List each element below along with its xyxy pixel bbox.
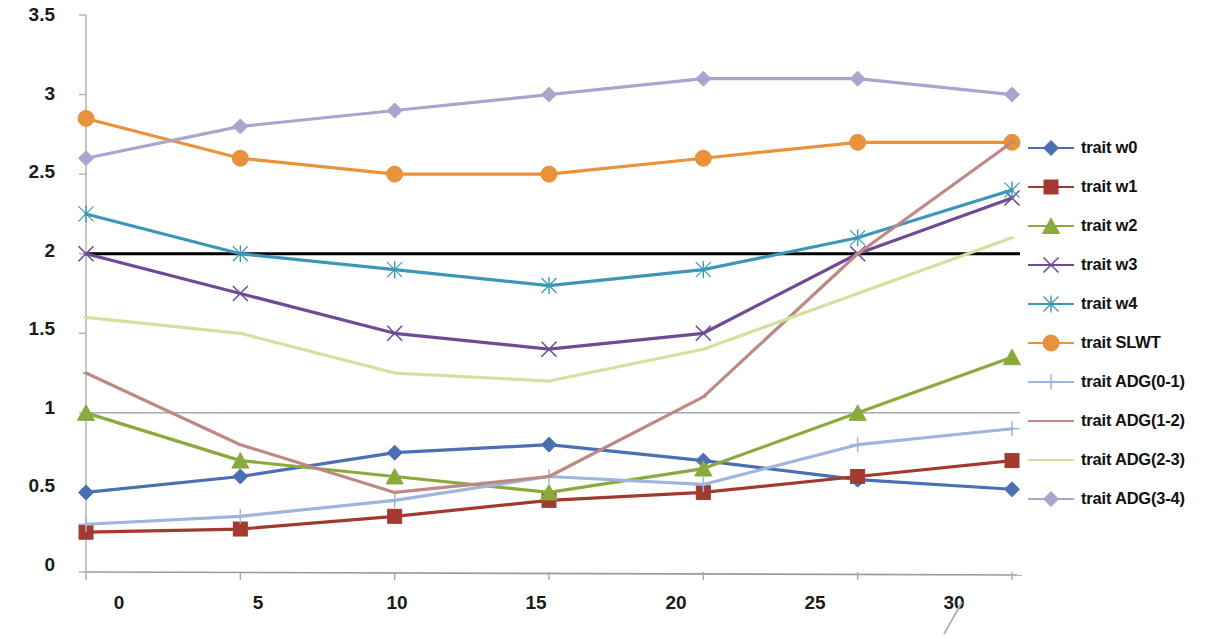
legend-swatch-icon [1028,451,1074,469]
legend-marker-icon [1028,334,1074,352]
legend-label: trait ADG(1-2) [1081,411,1185,430]
legend-item-trait-slwt[interactable]: trait SLWT [1028,323,1222,362]
legend-swatch-icon [1028,178,1074,196]
legend-swatch-icon [1028,217,1074,235]
legend-label: trait ADG(0-1) [1081,372,1185,391]
legend-item-trait-adg-3-4-[interactable]: trait ADG(3-4) [1028,479,1222,518]
legend-item-trait-adg-2-3-[interactable]: trait ADG(2-3) [1028,440,1222,479]
legend-marker-icon [1028,139,1074,157]
legend-item-trait-w0[interactable]: trait w0 [1028,128,1222,167]
legend-item-trait-w2[interactable]: trait w2 [1028,206,1222,245]
legend-swatch-icon [1028,139,1074,157]
chart-legend: trait w0trait w1trait w2trait w3trait w4… [1028,128,1222,518]
legend-marker-icon [1028,256,1074,274]
legend-label: trait SLWT [1081,333,1161,352]
legend-marker-icon [1028,412,1074,430]
legend-label: trait w0 [1081,138,1137,157]
legend-item-trait-adg-1-2-[interactable]: trait ADG(1-2) [1028,401,1222,440]
legend-label: trait ADG(3-4) [1081,489,1185,508]
legend-label: trait w4 [1081,294,1137,313]
legend-item-trait-w4[interactable]: trait w4 [1028,284,1222,323]
legend-marker-icon [1028,373,1074,391]
legend-label: trait ADG(2-3) [1081,450,1185,469]
legend-label: trait w2 [1081,216,1137,235]
legend-marker-icon [1028,451,1074,469]
legend-swatch-icon [1028,256,1074,274]
legend-marker-icon [1028,217,1074,235]
legend-item-trait-w3[interactable]: trait w3 [1028,245,1222,284]
legend-swatch-icon [1028,373,1074,391]
legend-marker-icon [1028,295,1074,313]
series-trait-slwt [78,110,1020,182]
stray-pen-mark [940,600,966,636]
line-chart: 3.5 3 2.5 2 1.5 1 0.5 0 0 5 10 15 20 25 … [0,0,1222,639]
legend-swatch-icon [1028,295,1074,313]
legend-item-trait-w1[interactable]: trait w1 [1028,167,1222,206]
legend-item-trait-adg-0-1-[interactable]: trait ADG(0-1) [1028,362,1222,401]
legend-swatch-icon [1028,334,1074,352]
legend-marker-icon [1028,178,1074,196]
series-trait-adg-2-3- [83,238,1015,381]
legend-marker-icon [1028,490,1074,508]
legend-label: trait w3 [1081,255,1137,274]
legend-swatch-icon [1028,490,1074,508]
legend-label: trait w1 [1081,177,1137,196]
legend-swatch-icon [1028,412,1074,430]
